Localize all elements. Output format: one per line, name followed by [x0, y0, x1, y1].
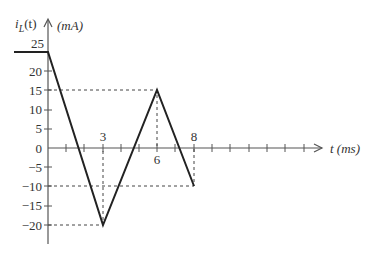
- svg-text:20: 20: [29, 64, 42, 79]
- svg-text:−5: −5: [28, 160, 42, 175]
- svg-text:15: 15: [29, 83, 42, 98]
- svg-text:25: 25: [31, 36, 44, 51]
- x-tick-label-6: 6: [154, 152, 161, 167]
- svg-text:−10: −10: [22, 179, 42, 194]
- svg-text:−15: −15: [22, 198, 42, 213]
- dashed-guides: [48, 90, 194, 225]
- current-waveform-chart: 25 20 15 10 5 0 −5 −10 −15 −20 3 6 8 iL(…: [0, 0, 376, 256]
- y-axis-title: iL(t): [15, 16, 36, 34]
- svg-text:10: 10: [29, 102, 42, 117]
- y-tick-labels: 25 20 15 10 5 0 −5 −10 −15 −20: [22, 36, 44, 233]
- svg-text:5: 5: [36, 121, 43, 136]
- svg-text:−20: −20: [22, 218, 42, 233]
- y-axis-unit: (mA): [57, 18, 83, 33]
- x-axis-title: t (ms): [330, 141, 360, 156]
- x-tick-label-3: 3: [100, 129, 107, 144]
- x-tick-label-8: 8: [191, 129, 198, 144]
- svg-text:0: 0: [36, 141, 43, 156]
